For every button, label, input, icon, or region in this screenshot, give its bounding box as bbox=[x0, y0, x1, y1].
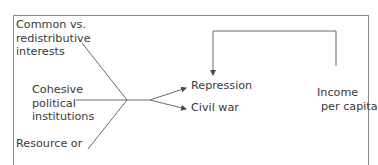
feedback-income-per-capita: Income per capita bbox=[317, 86, 378, 113]
input-resource: Resource or bbox=[16, 137, 82, 151]
input-institutions: Cohesive political institutions bbox=[32, 83, 94, 124]
input-interests: Common vs. redistributive interests bbox=[16, 18, 91, 59]
label-line: Common vs. bbox=[16, 18, 91, 32]
label-line: per capita bbox=[317, 100, 378, 114]
label-line: political bbox=[32, 97, 94, 111]
feedback-arrow bbox=[213, 31, 336, 75]
repression-arrow bbox=[150, 88, 186, 100]
label-line: institutions bbox=[32, 110, 94, 124]
label-line: Income bbox=[317, 86, 378, 100]
label-line: Resource or bbox=[16, 137, 82, 151]
label-line: redistributive bbox=[16, 32, 91, 46]
label-line: Cohesive bbox=[32, 83, 94, 97]
label-line: interests bbox=[16, 45, 91, 59]
outcome-repression: Repression bbox=[191, 79, 252, 93]
civil-war-arrow bbox=[150, 100, 186, 109]
outcome-civil-war: Civil war bbox=[191, 101, 239, 115]
